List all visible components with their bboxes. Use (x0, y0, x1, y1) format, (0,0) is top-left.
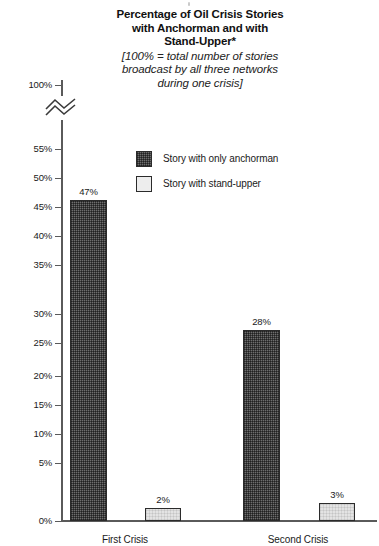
category-label: Second Crisis (253, 534, 343, 545)
y-tick-mark (55, 434, 62, 435)
bar-second-crisis-anchorman[interactable] (243, 330, 280, 521)
legend-item-anchorman[interactable]: Story with only anchorman (136, 150, 278, 167)
category-label: First Crisis (80, 534, 170, 545)
y-tick-mark (55, 521, 62, 522)
chart-subtitle-line-3: during one crisis] (60, 77, 340, 91)
y-tick-label: 35% (0, 260, 52, 270)
bar-chart: Percentage of Oil Crisis Stories with An… (0, 0, 379, 546)
legend-label-anchorman: Story with only anchorman (163, 153, 278, 164)
chart-title-line-3: Stand-Upper* (60, 35, 340, 49)
y-tick-mark (55, 178, 62, 179)
chart-title-line-1: Percentage of Oil Crisis Stories (60, 8, 340, 22)
chart-title: Percentage of Oil Crisis Stories with An… (60, 8, 340, 49)
y-tick-label: 25% (0, 338, 52, 348)
title-block: Percentage of Oil Crisis Stories with An… (60, 8, 340, 90)
y-tick-label: 55% (0, 144, 52, 154)
chart-subtitle-line-1: [100% = total number of stories (60, 50, 340, 64)
y-tick-label: 40% (0, 231, 52, 241)
bar-first-crisis-standupper[interactable] (145, 508, 181, 521)
y-tick-label: 0% (0, 516, 52, 526)
y-axis-line (61, 80, 63, 522)
bar-value-label: 28% (235, 316, 288, 327)
bar-first-crisis-anchorman[interactable] (70, 200, 107, 521)
y-tick-label: 30% (0, 309, 52, 319)
y-tick-label: 45% (0, 202, 52, 212)
y-tick-mark (55, 343, 62, 344)
y-tick-mark (55, 85, 62, 86)
chart-subtitle-line-2: broadcast by all three networks (60, 63, 340, 77)
legend-swatch-standupper (136, 176, 152, 192)
y-tick-label: 50% (0, 173, 52, 183)
legend-label-standupper: Story with stand-upper (163, 178, 261, 189)
y-tick-mark (55, 265, 62, 266)
y-tick-mark (55, 149, 62, 150)
legend: Story with only anchorman Story with sta… (136, 150, 278, 200)
y-tick-mark (55, 314, 62, 315)
y-tick-label: 20% (0, 371, 52, 381)
scan-artifact (188, 2, 190, 6)
y-tick-label: 100% (0, 80, 52, 90)
bar-second-crisis-standupper[interactable] (319, 503, 355, 521)
y-tick-label: 5% (0, 458, 52, 468)
y-tick-mark (55, 207, 62, 208)
y-tick-mark (55, 405, 62, 406)
y-tick-label: 10% (0, 429, 52, 439)
chart-subtitle: [100% = total number of stories broadcas… (60, 50, 340, 91)
bar-value-label: 2% (137, 494, 189, 505)
chart-title-line-2: with Anchorman and with (60, 22, 340, 36)
bar-value-label: 47% (62, 186, 115, 197)
y-tick-label: 15% (0, 400, 52, 410)
bar-value-label: 3% (311, 489, 363, 500)
y-tick-mark (55, 463, 62, 464)
legend-swatch-anchorman (136, 151, 152, 167)
y-tick-mark (55, 236, 62, 237)
axis-break-zigzag-icon (44, 96, 78, 120)
legend-item-standupper[interactable]: Story with stand-upper (136, 175, 278, 192)
y-tick-mark (55, 376, 62, 377)
